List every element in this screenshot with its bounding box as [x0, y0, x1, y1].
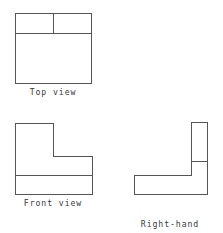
side-view-caption-line-1: Right-hand — [128, 219, 212, 230]
side-view-caption: Right-hand side view — [128, 198, 212, 233]
drawing-sheet: Top view Front view Right-hand side view — [0, 0, 223, 233]
top-view-group — [15, 13, 91, 83]
front-view-caption: Front view — [13, 198, 93, 209]
side-view-group — [134, 122, 207, 194]
front-view-group — [15, 123, 92, 194]
top-view-caption: Top view — [15, 87, 91, 98]
side-view-outline — [134, 122, 207, 194]
front-view-outline — [15, 123, 92, 194]
